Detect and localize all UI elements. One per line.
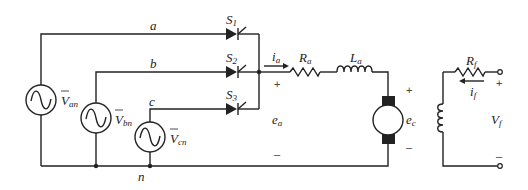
motor-emf-label: ec [406,112,416,128]
junction-dot [94,164,98,168]
dc-motor-icon [373,96,403,144]
armature-inductor-icon [337,66,372,72]
source-label-vbn: Vbn [115,110,132,128]
switch-label-s2: S2 [226,50,238,66]
armature-resistor-icon [290,68,320,76]
field-plus-sign: + [496,77,502,89]
field-resistor-label: Rf [465,53,478,69]
svg-text:Vcn: Vcn [170,131,187,147]
field-current-arrow-icon [459,78,465,84]
ac-source-icon [26,85,56,115]
ac-source-icon [135,122,165,152]
neutral-return-wire [41,144,388,166]
svg-text:Vbn: Vbn [115,112,132,128]
armature-inductor-label: La [349,50,362,66]
phase-c-wire [150,109,226,166]
field-current-label: if [470,84,478,100]
svg-text:Van: Van [61,93,78,109]
thyristor-s3-icon [226,102,259,115]
motor-minus-sign: – [406,141,413,153]
ac-source-icon [81,103,111,133]
armature-voltage-label: ea [272,112,283,128]
switch-label-s1: S1 [226,12,237,28]
armature-resistor-label: Ra [298,50,312,66]
field-voltage-label: Vf [491,112,503,128]
field-minus-sign: – [496,150,503,162]
phase-label-a: a [150,18,157,33]
source-label-vcn: Vcn [170,129,187,147]
circuit-diagram: a b c n Van Vbn Vcn S1 S2 S3 ia Ra La + … [0,0,528,190]
source-label-van: Van [61,91,78,109]
armature-wire [372,72,388,96]
field-winding-icon [438,104,443,132]
field-resistor-icon [455,68,485,76]
thyristor-s1-icon [226,27,259,40]
junction-dot [148,164,152,168]
armature-minus-sign: – [274,148,281,160]
armature-plus-sign: + [274,78,280,90]
neutral-label: n [138,169,145,184]
terminal-plus[interactable] [498,70,503,75]
armature-current-label: ia [272,49,281,65]
motor-plus-sign: + [406,84,412,96]
terminal-minus[interactable] [498,164,503,169]
phase-label-b: b [150,56,157,71]
switch-label-s3: S3 [226,87,238,103]
thyristor-s2-icon [226,65,259,78]
phase-label-c: c [149,94,155,109]
